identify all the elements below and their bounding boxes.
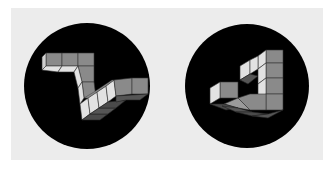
right-illusion — [185, 24, 309, 148]
left-illusion — [24, 23, 150, 149]
illusion-figures — [0, 0, 331, 171]
right-disc — [185, 24, 309, 148]
